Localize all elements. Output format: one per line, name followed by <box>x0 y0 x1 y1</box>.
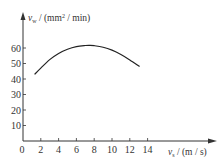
y-tick-label: 60 <box>11 43 21 54</box>
y-axis-label: vw / (mm2 / min) <box>28 13 90 24</box>
y-ticks: 102030405060 <box>11 43 26 132</box>
x-tick-label: 10 <box>107 144 117 155</box>
y-axis-arrow-icon <box>21 12 26 20</box>
y-tick-label: 10 <box>11 120 21 131</box>
x-axis-label: vs / (m / s) <box>168 147 207 158</box>
y-tick-label: 30 <box>11 89 21 100</box>
y-tick-label: 20 <box>11 105 21 116</box>
x-tick-label: 12 <box>125 144 135 155</box>
y-tick-label: 50 <box>11 58 21 69</box>
chart: 02468101214 102030405060 vw / (mm2 / min… <box>0 0 224 166</box>
axes <box>21 12 218 144</box>
x-axis-arrow-icon <box>208 139 217 144</box>
x-tick-label: 8 <box>92 144 97 155</box>
data-curve <box>35 45 140 74</box>
x-tick-label: 6 <box>74 144 79 155</box>
x-tick-label: 14 <box>143 144 153 155</box>
y-tick-label: 40 <box>11 74 21 85</box>
x-tick-label: 2 <box>38 144 43 155</box>
x-tick-label: 4 <box>56 144 61 155</box>
x-tick-label: 0 <box>20 144 25 155</box>
